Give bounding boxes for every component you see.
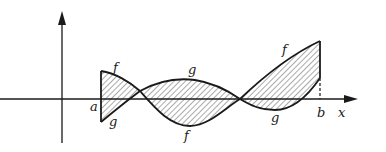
x-axis-arrow-icon bbox=[344, 95, 358, 103]
diagram-canvas: f g g f f g a b x bbox=[0, 0, 386, 152]
label-x-axis: x bbox=[338, 105, 346, 120]
label-f-left: f bbox=[112, 60, 120, 75]
label-a: a bbox=[90, 99, 98, 114]
label-g-right: g bbox=[271, 110, 279, 125]
label-g-left: g bbox=[109, 114, 117, 129]
y-axis-arrow-icon bbox=[58, 11, 66, 25]
label-f-right: f bbox=[281, 42, 289, 57]
label-g-top: g bbox=[188, 62, 196, 77]
area-between-curves-diagram: f g g f f g a b x bbox=[0, 0, 386, 152]
label-b: b bbox=[317, 105, 325, 120]
shaded-region-2 bbox=[140, 79, 240, 126]
label-f-bottom: f bbox=[183, 128, 191, 143]
